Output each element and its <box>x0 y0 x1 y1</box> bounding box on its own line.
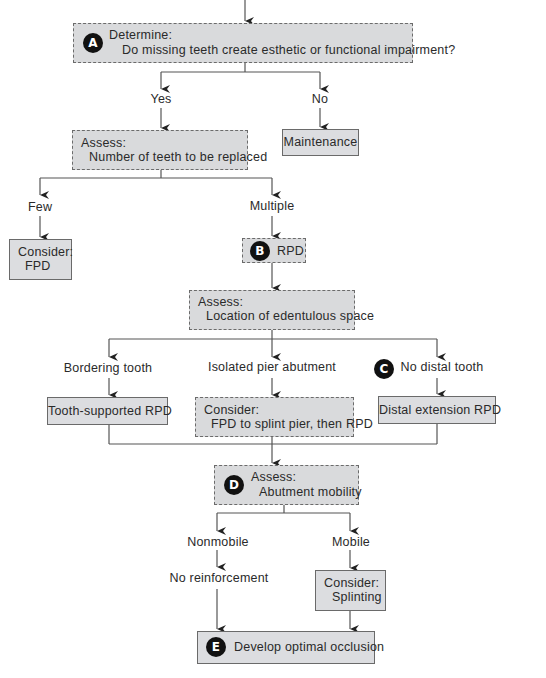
box-heading: Assess: <box>198 295 243 309</box>
assess-edentulous-location-box: Assess: Location of edentulous space <box>189 290 355 330</box>
box-text: Abutment mobility <box>259 485 362 499</box>
label-mobile: Mobile <box>332 535 370 549</box>
develop-occlusion-box: E Develop optimal occlusion <box>197 631 375 664</box>
box-text: FPD to splint pier, then RPD <box>211 417 373 431</box>
box-text: Maintenance <box>283 135 358 149</box>
box-heading: Assess: <box>251 470 296 484</box>
distal-extension-rpd-box: Distal extension RPD <box>378 396 496 424</box>
box-text: Tooth-supported RPD <box>48 404 167 418</box>
box-text: FPD <box>25 259 51 273</box>
label-yes: Yes <box>151 92 172 106</box>
tooth-supported-rpd-box: Tooth-supported RPD <box>47 397 168 425</box>
label-few: Few <box>28 200 52 214</box>
maintenance-box: Maintenance <box>282 129 359 156</box>
badge-b: B <box>250 241 270 261</box>
box-text: Number of teeth to be replaced <box>89 150 267 164</box>
label-bordering-tooth: Bordering tooth <box>64 361 152 375</box>
badge-a: A <box>83 33 103 53</box>
connector-lines <box>0 0 546 678</box>
box-heading: Determine: <box>109 28 172 42</box>
badge-d: D <box>224 475 244 495</box>
assess-teeth-count-box: Assess: Number of teeth to be replaced <box>72 130 248 170</box>
box-text: Do missing teeth create esthetic or func… <box>122 43 455 57</box>
consider-splint-pier-box: Consider: FPD to splint pier, then RPD <box>195 397 354 437</box>
label-no-distal-tooth: No distal tooth <box>401 360 484 374</box>
box-text: Splinting <box>332 590 382 604</box>
consider-splinting-box: Consider: Splinting <box>315 570 386 611</box>
badge-e: E <box>206 637 226 657</box>
box-heading: Assess: <box>81 136 126 150</box>
determine-impairment-box: A Determine: Do missing teeth create est… <box>73 23 413 63</box>
box-text: Distal extension RPD <box>379 403 495 417</box>
box-text: Location of edentulous space <box>206 309 374 323</box>
assess-abutment-mobility-box: D Assess: Abutment mobility <box>214 465 359 505</box>
label-multiple: Multiple <box>250 199 295 213</box>
box-text: RPD <box>277 244 304 258</box>
rpd-box: B RPD <box>242 238 306 263</box>
treatment-flowchart: A Determine: Do missing teeth create est… <box>0 0 546 678</box>
label-no: No <box>312 92 328 106</box>
badge-c: C <box>374 359 394 379</box>
label-nonmobile: Nonmobile <box>187 535 249 549</box>
box-text: Develop optimal occlusion <box>234 640 384 654</box>
box-heading: Consider: <box>324 576 379 590</box>
box-heading: Consider: <box>204 403 259 417</box>
consider-fpd-box: Consider: FPD <box>9 239 72 280</box>
label-isolated-pier: Isolated pier abutment <box>208 360 336 374</box>
box-heading: Consider: <box>18 245 73 259</box>
label-no-reinforcement: No reinforcement <box>169 571 268 585</box>
